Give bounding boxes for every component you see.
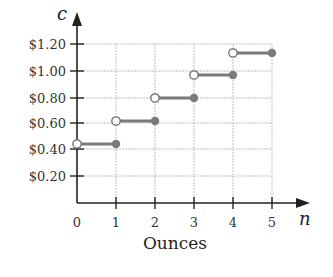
ticks <box>70 44 272 209</box>
x-tick-labels: 0 1 2 3 4 5 <box>73 215 276 230</box>
svg-text:3: 3 <box>190 215 198 230</box>
grid <box>77 44 272 203</box>
svg-text:2: 2 <box>151 215 159 230</box>
svg-text:0: 0 <box>73 215 81 230</box>
svg-text:1: 1 <box>112 215 120 230</box>
svg-text:$0.20: $0.20 <box>29 169 66 184</box>
x-axis-label: Ounces <box>143 233 207 253</box>
svg-text:$0.40: $0.40 <box>29 142 66 157</box>
svg-text:$1.00: $1.00 <box>29 64 66 79</box>
svg-text:5: 5 <box>268 215 276 230</box>
step-chart: $1.20 $1.00 $0.80 $0.60 $0.40 $0.20 0 1 … <box>0 0 333 277</box>
x-axis-variable: n <box>299 208 311 229</box>
svg-text:4: 4 <box>229 215 237 230</box>
svg-text:$0.80: $0.80 <box>29 91 66 106</box>
x-axis-arrow-icon <box>296 198 310 208</box>
y-tick-labels: $1.20 $1.00 $0.80 $0.60 $0.40 $0.20 <box>29 37 66 184</box>
svg-text:$0.60: $0.60 <box>29 116 66 131</box>
svg-text:$1.20: $1.20 <box>29 37 66 52</box>
y-axis-variable: c <box>57 3 67 24</box>
y-axis-arrow-icon <box>72 12 82 26</box>
